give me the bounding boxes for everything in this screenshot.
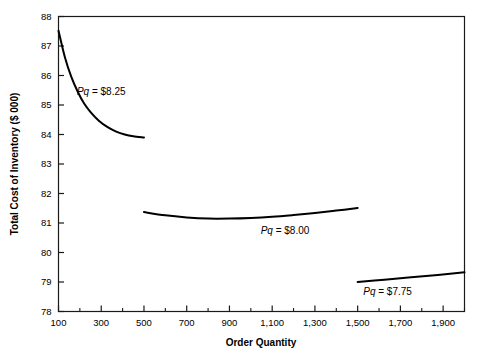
- x-tick-label-900: 900: [222, 317, 238, 328]
- annotation-label-0: Pq = $8.25: [77, 86, 126, 97]
- x-tick-label-700: 700: [179, 317, 195, 328]
- annotation-label-2: Pq = $7.75: [363, 286, 412, 297]
- y-tick-label-87: 87: [41, 40, 52, 51]
- y-tick-label-83: 83: [41, 158, 52, 169]
- annotation-label-1: Pq = $8.00: [261, 225, 310, 236]
- y-tick-label-78: 78: [41, 306, 52, 317]
- y-tick-label-85: 85: [41, 99, 52, 110]
- y-axis-title: Total Cost of Inventory ($ 000): [9, 93, 20, 236]
- x-tick-label-500: 500: [136, 317, 152, 328]
- x-tick-label-1100: 1,100: [260, 317, 284, 328]
- y-tick-label-81: 81: [41, 217, 52, 228]
- x-tick-label-300: 300: [93, 317, 109, 328]
- x-tick-label-1300: 1,300: [303, 317, 327, 328]
- x-tick-label-1700: 1,700: [389, 317, 413, 328]
- y-tick-label-86: 86: [41, 70, 52, 81]
- y-tick-label-82: 82: [41, 188, 52, 199]
- x-axis-title: Order Quantity: [226, 337, 297, 348]
- total-cost-of-inventory-line-chart: 7879808182838485868788 1003005007009001,…: [0, 0, 484, 355]
- x-tick-label-1900: 1,900: [431, 317, 455, 328]
- chart-background: [0, 0, 484, 355]
- y-tick-label-79: 79: [41, 276, 52, 287]
- y-tick-label-84: 84: [41, 129, 52, 140]
- y-tick-label-80: 80: [41, 247, 52, 258]
- chart-figure: 7879808182838485868788 1003005007009001,…: [0, 0, 484, 355]
- x-tick-label-100: 100: [51, 317, 67, 328]
- x-tick-label-1500: 1,500: [346, 317, 370, 328]
- y-tick-label-88: 88: [41, 11, 52, 22]
